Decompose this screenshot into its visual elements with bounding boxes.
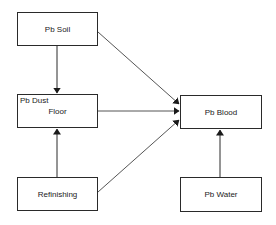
edge-soil-to-blood — [98, 32, 179, 104]
node-refinishing: Refinishing — [17, 177, 98, 211]
node-pb-blood: Pb Blood — [180, 95, 262, 129]
node-floor: Pb Dust Floor — [17, 94, 98, 128]
node-pb-water: Pb Water — [180, 177, 262, 212]
node-label: Pb Blood — [205, 108, 237, 117]
node-label: Pb Water — [204, 190, 237, 199]
node-pb-soil: Pb Soil — [17, 12, 98, 46]
node-sublabel: Pb Dust — [20, 96, 48, 105]
edge-refinishing-to-blood — [98, 120, 179, 192]
node-label: Pb Soil — [45, 25, 70, 34]
node-label: Floor — [48, 107, 66, 116]
node-label: Refinishing — [38, 190, 78, 199]
